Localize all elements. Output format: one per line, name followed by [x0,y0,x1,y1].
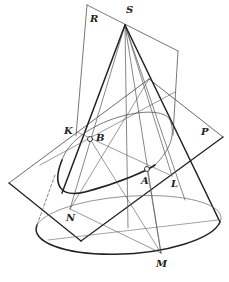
label-s: S [126,5,133,15]
plane-p [9,79,223,183]
point-a [145,167,150,172]
plane-p-front-edges [9,137,223,241]
diagram-drawing [0,0,229,282]
label-r: R [90,14,98,24]
label-p: P [201,127,209,137]
label-m: M [156,259,167,269]
label-n: N [66,213,75,223]
point-b [88,137,93,142]
label-b: B [96,133,104,143]
label-a: A [141,176,149,186]
label-l: L [171,179,178,189]
cone-section-diagram: S R P K B A L N M [0,0,229,282]
label-k: K [64,126,73,136]
